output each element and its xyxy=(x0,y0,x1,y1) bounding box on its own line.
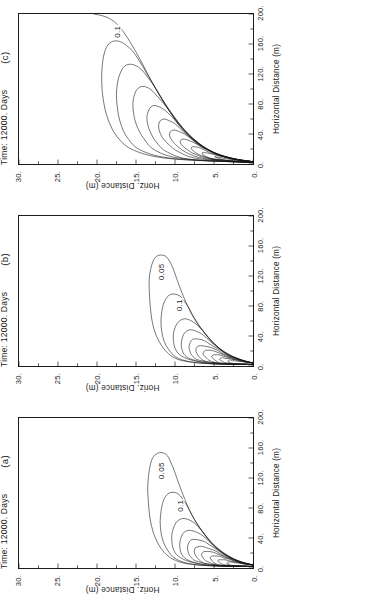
x-tick-label: 160. xyxy=(256,440,265,456)
x-tick-label: 0. xyxy=(256,566,265,573)
y-tick-label: 0. xyxy=(250,575,259,582)
contour-value-label: 0.1 xyxy=(176,499,185,513)
panel-a-x-axis-title: Horizontal Distance (m) xyxy=(272,417,281,569)
y-tick-label: 30. xyxy=(14,373,23,384)
panel-b-x-ticklabels: 0.40.80.120.160.200. xyxy=(256,215,270,367)
rotation-wrapper: Time: 12000. Days (a) 0.050.1 0.5.10.15.… xyxy=(0,0,368,607)
figure-canvas: Time: 12000. Days (a) 0.050.1 0.5.10.15.… xyxy=(0,0,368,607)
panel-a: Time: 12000. Days (a) 0.050.1 0.5.10.15.… xyxy=(0,405,368,607)
y-tick-label: 5. xyxy=(210,373,219,380)
y-tick-label: 0. xyxy=(250,171,259,178)
panel-a-title-row: Time: 12000. Days (a) xyxy=(0,417,14,569)
contour-line xyxy=(181,330,253,365)
x-tick-label: 120. xyxy=(256,470,265,486)
contour-line xyxy=(159,119,253,163)
contour-line xyxy=(180,139,253,162)
contour-line xyxy=(173,319,253,365)
y-tick-label: 30. xyxy=(14,171,23,182)
panel-c-contour-svg xyxy=(19,14,253,164)
contour-value-label: 0.05 xyxy=(156,461,165,480)
panel-b: Time: 12000. Days (b) 0.050.1 0.5.10.15.… xyxy=(0,203,368,405)
panel-a-x-ticklabels: 0.40.80.120.160.200. xyxy=(256,417,270,569)
panel-c-label: (c) xyxy=(0,51,10,63)
panel-c-x-ticklabels: 0.40.80.120.160.200. xyxy=(256,13,270,165)
y-tick-label: 0. xyxy=(250,373,259,380)
panel-a-plot-frame: 0.050.1 xyxy=(18,417,254,569)
contour-line xyxy=(160,492,253,566)
x-tick-label: 0. xyxy=(256,364,265,371)
x-tick-label: 80. xyxy=(256,99,265,110)
tick-marks xyxy=(19,418,253,568)
x-tick-label: 120. xyxy=(256,268,265,284)
contour-value-label: 0.05 xyxy=(156,262,165,281)
x-tick-label: 160. xyxy=(256,238,265,254)
panel-b-time-title: Time: 12000. Days xyxy=(0,292,9,367)
panel-c-time-title: Time: 12000. Days xyxy=(0,90,9,165)
panel-b-x-axis-title: Horizontal Distance (m) xyxy=(272,215,281,367)
x-tick-label: 200. xyxy=(256,207,265,223)
contour-line xyxy=(102,41,253,163)
y-tick-label: 5. xyxy=(210,171,219,178)
x-tick-label: 120. xyxy=(256,66,265,82)
tick-marks xyxy=(19,14,253,164)
x-tick-label: 160. xyxy=(256,36,265,52)
panel-b-y-axis-title: Horiz. Distance (m) xyxy=(53,383,193,392)
panel-c-x-axis-title: Horizontal Distance (m) xyxy=(272,13,281,165)
panel-a-label: (a) xyxy=(0,455,10,468)
panel-c-plot-frame: 0.1 xyxy=(18,13,254,165)
contour-line xyxy=(172,518,253,566)
y-tick-label: 5. xyxy=(210,575,219,582)
contour-value-label: 0.1 xyxy=(175,298,184,312)
x-tick-label: 40. xyxy=(256,533,265,544)
panel-b-label: (b) xyxy=(0,253,10,266)
panel-c-y-axis-title: Horiz. Distance (m) xyxy=(53,181,193,190)
panel-c-title-row: Time: 12000. Days (c) xyxy=(0,13,14,165)
figure-page: Time: 12000. Days (a) 0.050.1 0.5.10.15.… xyxy=(0,0,368,607)
panel-b-plot-frame: 0.050.1 xyxy=(18,215,254,367)
tick-marks xyxy=(19,216,253,366)
y-tick-label: 30. xyxy=(14,575,23,586)
panel-b-contour-svg xyxy=(19,216,253,366)
x-tick-label: 40. xyxy=(256,331,265,342)
x-tick-label: 200. xyxy=(256,5,265,21)
x-tick-label: 80. xyxy=(256,301,265,312)
contour-line xyxy=(133,86,253,162)
x-tick-label: 0. xyxy=(256,162,265,169)
panel-c: Time: 12000. Days (c) 0.1 0.5.10.15.20.2… xyxy=(0,1,368,203)
panel-a-y-axis-title: Horiz. Distance (m) xyxy=(53,585,193,594)
contour-value-label: 0.1 xyxy=(113,25,122,39)
contour-line xyxy=(180,530,253,566)
panel-a-time-title: Time: 12000. Days xyxy=(0,494,9,569)
panel-b-title-row: Time: 12000. Days (b) xyxy=(0,215,14,367)
x-tick-label: 40. xyxy=(256,129,265,140)
x-tick-label: 200. xyxy=(256,409,265,425)
panel-a-contour-svg xyxy=(19,418,253,568)
x-tick-label: 80. xyxy=(256,503,265,514)
